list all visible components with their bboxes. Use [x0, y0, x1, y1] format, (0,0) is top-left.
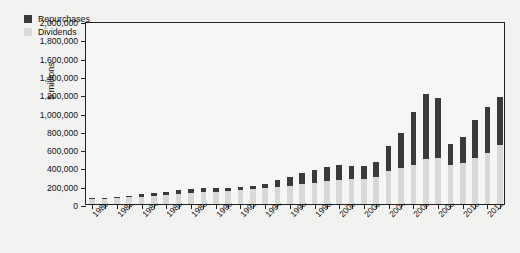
bar-2007 [423, 94, 429, 204]
bar-segment-repurchases [213, 188, 219, 192]
bar-segment-repurchases [435, 98, 441, 158]
bar-1999 [324, 167, 330, 204]
bar-segment-repurchases [398, 133, 404, 169]
y-tick-label: 800,000 [47, 128, 78, 138]
y-tick-mark [81, 78, 86, 79]
bar-segment-repurchases [485, 107, 491, 153]
bar-2012 [485, 107, 491, 204]
bar-1998 [312, 170, 318, 204]
bar-segment-dividends [151, 196, 157, 204]
x-tick-mark [500, 204, 501, 209]
bar-segment-repurchases [114, 197, 120, 198]
bar-1980 [89, 198, 95, 204]
bar-segment-dividends [250, 189, 256, 204]
y-tick-label: 600,000 [47, 146, 78, 156]
legend-label-repurchases: Repurchases [38, 14, 90, 24]
bar-segment-dividends [324, 181, 330, 204]
y-tick-mark [81, 188, 86, 189]
bar-2005 [398, 133, 404, 204]
bar-segment-repurchases [262, 184, 268, 189]
bar-segment-dividends [398, 168, 404, 204]
bar-segment-repurchases [89, 198, 95, 199]
bar-segment-repurchases [102, 198, 108, 199]
bar-segment-dividends [485, 153, 491, 204]
legend-item-repurchases: Repurchases [24, 14, 90, 24]
bar-segment-repurchases [151, 193, 157, 196]
bar-segment-repurchases [176, 190, 182, 194]
bar-1981 [102, 198, 108, 204]
chart-figure: $ millions 0200,000400,000600,000800,000… [0, 0, 520, 253]
legend-swatch-dividends-icon [24, 28, 32, 36]
bar-segment-dividends [361, 179, 367, 204]
bar-segment-repurchases [312, 170, 318, 183]
bar-2010 [460, 137, 466, 204]
bar-segment-repurchases [361, 166, 367, 179]
bar-1992 [238, 187, 244, 204]
x-tick-mark [376, 204, 377, 209]
bar-segment-repurchases [188, 189, 194, 193]
bar-segment-dividends [423, 159, 429, 204]
bar-segment-repurchases [163, 192, 169, 195]
bar-segment-dividends [373, 177, 379, 204]
bar-2000 [336, 165, 342, 204]
bar-segment-dividends [163, 195, 169, 204]
chart-legend: Repurchases Dividends [24, 14, 90, 40]
bar-segment-repurchases [472, 120, 478, 158]
bar-segment-dividends [472, 158, 478, 204]
bar-segment-dividends [225, 191, 231, 204]
bar-1989 [201, 188, 207, 204]
bar-segment-dividends [238, 190, 244, 204]
bar-segment-repurchases [201, 188, 207, 192]
y-tick-mark [81, 206, 86, 207]
bar-2008 [435, 98, 441, 204]
y-tick-mark [81, 169, 86, 170]
y-tick-label: 1,400,000 [40, 73, 78, 83]
bar-2011 [472, 120, 478, 204]
bar-segment-dividends [139, 197, 145, 205]
bar-segment-dividends [386, 171, 392, 204]
bar-segment-dividends [299, 184, 305, 204]
bar-2006 [411, 112, 417, 204]
y-tick-mark [81, 96, 86, 97]
bar-segment-dividends [213, 192, 219, 204]
bar-segment-dividends [201, 192, 207, 204]
bar-2003 [373, 162, 379, 204]
x-tick-mark [129, 204, 130, 209]
x-tick-mark [228, 204, 229, 209]
plot-area: 0200,000400,000600,000800,0001,000,0001,… [85, 22, 505, 205]
x-tick-mark [426, 204, 427, 209]
bar-2004 [386, 146, 392, 204]
x-tick-mark [253, 204, 254, 209]
y-tick-mark [81, 60, 86, 61]
bar-1985 [151, 193, 157, 204]
x-tick-mark [277, 204, 278, 209]
bar-1987 [176, 190, 182, 204]
x-tick-mark [450, 204, 451, 209]
y-tick-mark [81, 151, 86, 152]
bar-1997 [299, 173, 305, 204]
y-tick-label: 1,000,000 [40, 110, 78, 120]
bar-1990 [213, 188, 219, 204]
bar-segment-dividends [275, 187, 281, 204]
bar-2002 [361, 166, 367, 204]
bar-2013 [497, 97, 503, 204]
bar-segment-dividends [448, 165, 454, 204]
bar-segment-repurchases [225, 188, 231, 191]
legend-item-dividends: Dividends [24, 27, 90, 37]
bar-1983 [126, 196, 132, 204]
y-tick-mark [81, 115, 86, 116]
y-tick-label: 0 [73, 201, 78, 211]
bar-segment-repurchases [287, 177, 293, 186]
bar-segment-repurchases [460, 137, 466, 163]
x-tick-mark [302, 204, 303, 209]
bar-segment-dividends [89, 199, 95, 204]
bar-segment-repurchases [386, 146, 392, 171]
y-tick-mark [81, 133, 86, 134]
x-tick-mark [475, 204, 476, 209]
bar-1995 [275, 180, 281, 204]
x-tick-mark [327, 204, 328, 209]
y-tick-label: 200,000 [47, 183, 78, 193]
bar-segment-dividends [102, 199, 108, 204]
bar-segment-repurchases [373, 162, 379, 178]
bar-1982 [114, 197, 120, 204]
